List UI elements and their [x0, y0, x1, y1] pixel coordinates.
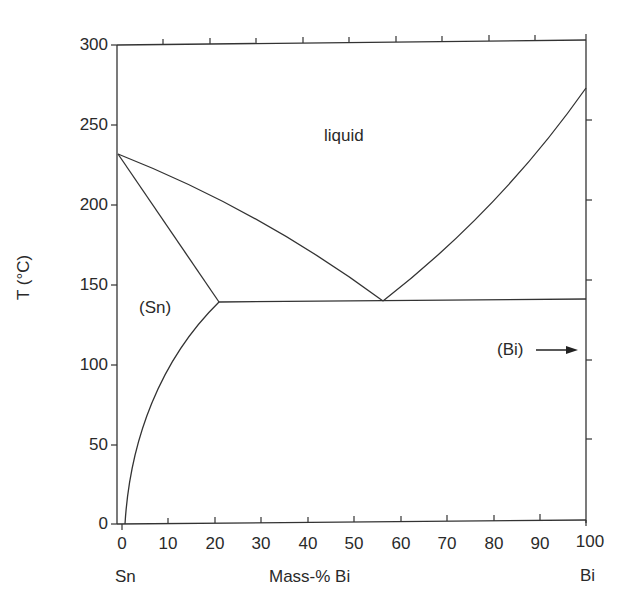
x-tick-label: 50 — [334, 534, 374, 554]
bi-end-label: Bi — [580, 566, 595, 586]
phase-diagram-chart: 300 250 200 150 100 50 0 0 10 20 30 40 5… — [0, 0, 619, 616]
x-ticks-bottom — [122, 514, 586, 530]
liquidus-bi-side — [383, 88, 586, 301]
solidus-sn — [118, 154, 219, 302]
sn-end-label: Sn — [115, 567, 136, 587]
x-tick-label: 70 — [427, 534, 467, 554]
x-tick-label: 40 — [288, 534, 328, 554]
x-axis-top — [117, 40, 586, 45]
bi-phase-label: (Bi) — [497, 340, 523, 360]
solvus-sn — [125, 302, 219, 524]
y-tick-label: 200 — [58, 195, 108, 215]
y-tick-label: 100 — [58, 355, 108, 375]
liquidus-sn-side — [118, 154, 383, 301]
y-ticks-left — [111, 45, 117, 524]
x-tick-label: 0 — [102, 534, 142, 554]
x-tick-label: 60 — [381, 534, 421, 554]
y-tick-label: 50 — [58, 435, 108, 455]
x-axis-label: Mass-% Bi — [269, 567, 350, 587]
x-axis-bottom — [117, 520, 586, 524]
eutectic-line — [219, 299, 586, 302]
liquid-region-label: liquid — [324, 126, 364, 146]
x-tick-label: 80 — [474, 534, 514, 554]
sn-phase-label: (Sn) — [139, 298, 171, 318]
x-tick-label: 30 — [241, 534, 281, 554]
x-tick-label: 10 — [148, 534, 188, 554]
x-tick-label: 100 — [570, 532, 610, 552]
y-tick-label: 250 — [58, 115, 108, 135]
y-ticks-right — [586, 120, 592, 439]
bi-arrow-icon — [536, 346, 578, 354]
x-tick-label: 20 — [195, 534, 235, 554]
y-tick-label: 150 — [58, 275, 108, 295]
y-axis-label: T (°C) — [14, 255, 34, 300]
x-tick-label: 90 — [520, 534, 560, 554]
y-tick-label: 0 — [58, 514, 108, 534]
y-tick-label: 300 — [58, 35, 108, 55]
